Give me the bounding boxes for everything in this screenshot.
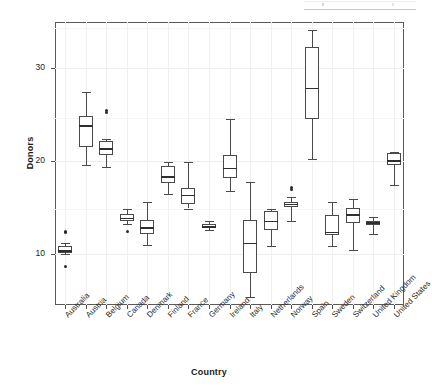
outlier-point — [64, 231, 67, 234]
box — [305, 47, 319, 119]
whisker-cap-upper — [246, 182, 255, 183]
median-line — [58, 250, 72, 252]
whisker-cap-upper — [287, 197, 296, 198]
whisker-lower — [271, 230, 272, 246]
gridline-vertical — [271, 22, 272, 305]
gridline-vertical — [209, 22, 210, 305]
median-line — [264, 221, 278, 223]
y-tick-label: 30 — [21, 62, 45, 72]
box — [243, 220, 257, 273]
box — [223, 155, 237, 178]
outlier-point — [64, 265, 67, 268]
median-line — [284, 204, 298, 206]
whisker-cap-upper — [184, 162, 193, 163]
gridline-vertical — [332, 22, 333, 305]
whisker-upper — [312, 30, 313, 47]
whisker-cap-upper — [61, 243, 70, 244]
y-tick-mark — [51, 161, 55, 162]
median-line — [99, 148, 113, 150]
whisker-cap-upper — [143, 202, 152, 203]
y-tick-label: 10 — [21, 248, 45, 258]
median-line — [305, 88, 319, 90]
gridline-vertical — [65, 22, 66, 305]
whisker-cap-upper — [102, 139, 111, 140]
whisker-lower — [168, 183, 169, 193]
box — [161, 166, 175, 184]
whisker-cap-lower — [61, 254, 70, 255]
whisker-cap-lower — [390, 185, 399, 186]
gridline-vertical — [353, 22, 354, 305]
whisker-upper — [86, 92, 87, 116]
artifact-tick-left — [322, 3, 324, 6]
box — [79, 116, 93, 148]
median-line — [325, 232, 339, 234]
whisker-cap-upper — [226, 119, 235, 120]
gridline-vertical — [373, 22, 374, 305]
median-line — [366, 222, 380, 224]
whisker-cap-upper — [82, 92, 91, 93]
gridline-vertical — [127, 22, 128, 305]
whisker-upper — [230, 119, 231, 154]
whisker-cap-lower — [369, 234, 378, 235]
whisker-cap-upper — [123, 209, 132, 210]
whisker-upper — [188, 162, 189, 188]
median-line — [202, 226, 216, 228]
whisker-upper — [147, 202, 148, 220]
median-line — [79, 125, 93, 127]
whisker-lower — [332, 235, 333, 245]
whisker-cap-lower — [246, 297, 255, 298]
whisker-lower — [353, 223, 354, 250]
whisker-cap-upper — [369, 217, 378, 218]
whisker-cap-lower — [164, 194, 173, 195]
median-line — [181, 195, 195, 197]
y-axis-title: Donors — [25, 113, 35, 193]
whisker-upper — [353, 199, 354, 207]
whisker-cap-upper — [349, 199, 358, 200]
median-line — [161, 176, 175, 178]
whisker-cap-lower — [308, 159, 317, 160]
cropped-header-artifact — [304, 1, 416, 11]
x-axis-title: Country — [0, 367, 418, 377]
whisker-lower — [250, 273, 251, 297]
median-line — [346, 214, 360, 216]
whisker-cap-lower — [102, 167, 111, 168]
whisker-upper — [332, 202, 333, 215]
artifact-rule — [304, 9, 416, 10]
whisker-cap-upper — [267, 209, 276, 210]
whisker-lower — [291, 207, 292, 221]
outlier-point — [105, 111, 108, 114]
whisker-cap-lower — [82, 165, 91, 166]
median-line — [387, 160, 401, 162]
gridline-vertical — [291, 22, 292, 305]
whisker-lower — [394, 165, 395, 185]
whisker-cap-upper — [308, 30, 317, 31]
whisker-cap-upper — [164, 162, 173, 163]
whisker-lower — [312, 119, 313, 159]
whisker-cap-lower — [123, 224, 132, 225]
whisker-lower — [86, 147, 87, 165]
median-line — [120, 218, 134, 220]
whisker-cap-lower — [184, 209, 193, 210]
y-tick-label: 20 — [21, 155, 45, 165]
whisker-upper — [250, 182, 251, 220]
box — [387, 153, 401, 165]
whisker-lower — [230, 178, 231, 191]
y-tick-mark — [51, 254, 55, 255]
median-line — [223, 168, 237, 170]
outlier-point — [126, 230, 129, 233]
whisker-cap-lower — [143, 245, 152, 246]
whisker-lower — [147, 234, 148, 245]
whisker-cap-lower — [226, 191, 235, 192]
whisker-lower — [106, 155, 107, 167]
whisker-cap-upper — [328, 202, 337, 203]
whisker-cap-upper — [205, 221, 214, 222]
artifact-tick-right — [392, 3, 394, 6]
whisker-cap-lower — [328, 246, 337, 247]
median-line — [140, 227, 154, 229]
whisker-cap-lower — [205, 230, 214, 231]
gridline-vertical — [147, 22, 148, 305]
whisker-cap-lower — [349, 250, 358, 251]
median-line — [243, 243, 257, 245]
whisker-cap-lower — [287, 221, 296, 222]
